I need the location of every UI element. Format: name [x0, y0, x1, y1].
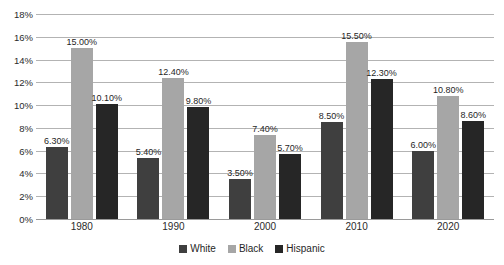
legend-item[interactable]: Black [228, 243, 263, 254]
bar-group: 8.50%15.50%12.30% [321, 14, 393, 219]
bar [46, 147, 68, 219]
legend-label: Hispanic [286, 243, 324, 254]
bar-value-label: 10.10% [92, 93, 123, 104]
bar-value-label: 8.50% [319, 111, 345, 122]
y-tick-label: 18% [3, 9, 33, 20]
bar [437, 96, 459, 219]
y-tick-label: 14% [3, 54, 33, 65]
bar-value-label: 8.60% [460, 110, 486, 121]
y-tick-label: 12% [3, 77, 33, 88]
bar [321, 122, 343, 219]
bar-value-label: 9.80% [186, 96, 212, 107]
legend-item[interactable]: Hispanic [275, 243, 324, 254]
bar [187, 107, 209, 219]
y-tick-label: 6% [3, 145, 33, 156]
y-tick-label: 4% [3, 168, 33, 179]
bar [371, 79, 393, 219]
legend-swatch-icon [275, 245, 283, 253]
legend-label: Black [239, 243, 263, 254]
x-tick-label: 2010 [345, 221, 367, 232]
bar-group: 3.50%7.40%5.70% [229, 14, 301, 219]
bar-value-label: 5.70% [277, 143, 303, 154]
bar-value-label: 7.40% [252, 124, 278, 135]
bar-value-label: 12.40% [158, 67, 189, 78]
x-axis: 19801990200020102020 [36, 221, 494, 239]
bar [71, 48, 93, 219]
bar-value-label: 5.40% [136, 147, 162, 158]
x-tick-label: 2020 [437, 221, 459, 232]
bar-chart: 0%2%4%6%8%10%12%14%16%18% 6.30%15.00%10.… [0, 0, 504, 265]
bar-value-label: 6.30% [44, 136, 70, 147]
bar [137, 158, 159, 220]
y-tick-label: 16% [3, 31, 33, 42]
y-axis: 0%2%4%6%8%10%12%14%16%18% [0, 14, 33, 219]
bar-group: 5.40%12.40%9.80% [137, 14, 209, 219]
bar [462, 121, 484, 219]
legend-swatch-icon [228, 245, 236, 253]
x-tick-label: 2000 [254, 221, 276, 232]
bar [96, 104, 118, 219]
y-tick-label: 0% [3, 214, 33, 225]
bar-group: 6.00%10.80%8.60% [412, 14, 484, 219]
y-tick-label: 2% [3, 191, 33, 202]
bar-value-label: 12.30% [366, 68, 397, 79]
y-tick-label: 8% [3, 122, 33, 133]
bars-layer: 6.30%15.00%10.10%5.40%12.40%9.80%3.50%7.… [36, 14, 494, 219]
bar [279, 154, 301, 219]
x-tick-label: 1980 [71, 221, 93, 232]
bar [229, 179, 251, 219]
bar-group: 6.30%15.00%10.10% [46, 14, 118, 219]
bar-value-label: 3.50% [227, 168, 253, 179]
legend-label: White [190, 243, 216, 254]
bar-value-label: 15.50% [341, 31, 372, 42]
bar [162, 78, 184, 219]
bar-value-label: 15.00% [67, 37, 98, 48]
bar [412, 151, 434, 219]
bar-value-label: 6.00% [410, 140, 436, 151]
gridline [36, 219, 494, 220]
x-tick-label: 1990 [162, 221, 184, 232]
y-tick-label: 10% [3, 100, 33, 111]
chart-legend: WhiteBlackHispanic [0, 243, 504, 254]
bar [346, 42, 368, 219]
bar [254, 135, 276, 219]
legend-swatch-icon [179, 245, 187, 253]
bar-value-label: 10.80% [433, 85, 464, 96]
legend-item[interactable]: White [179, 243, 216, 254]
